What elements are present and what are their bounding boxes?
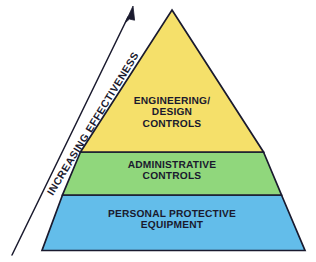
pyramid-tier-ppe (42, 195, 305, 251)
arrowhead-icon (125, 6, 134, 23)
pyramid-graphic (0, 0, 316, 262)
hierarchy-of-controls-diagram: INCREASING EFFECTIVENESS ENGINEERING/ DE… (0, 0, 316, 262)
pyramid-tier-engineering (81, 10, 264, 152)
pyramid-tier-administrative (63, 152, 282, 195)
